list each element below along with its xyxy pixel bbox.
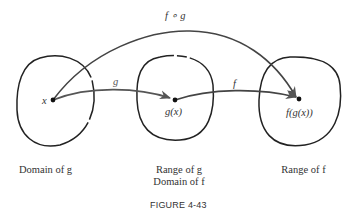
set-label-line1: Domain of g <box>19 164 72 175</box>
point-x-label: x <box>42 95 47 107</box>
point-gx-label: g(x) <box>165 106 182 118</box>
g-arrow-label: g <box>113 76 118 88</box>
figure-caption: FIGURE 4-43 <box>150 200 207 210</box>
set-label-line1: Range of g <box>146 164 212 176</box>
point-fgx <box>297 97 302 102</box>
composite-arrow-label: f ∘ g <box>165 10 185 22</box>
point-x <box>51 98 56 103</box>
point-fgx-label: f(g(x)) <box>286 107 313 119</box>
set-label-range-of-g: Range of g Domain of f <box>146 164 212 187</box>
f-arrow <box>175 91 296 100</box>
f-arrow-label: f <box>233 78 236 90</box>
set-label-line1: Range of f <box>281 164 325 175</box>
set-label-range-of-f: Range of f <box>276 164 331 176</box>
point-gx <box>173 98 178 103</box>
range-of-f-set <box>259 57 341 146</box>
set-label-line2: Domain of f <box>146 176 212 188</box>
set-label-domain-of-g: Domain of g <box>19 164 79 176</box>
g-arrow <box>53 90 170 100</box>
